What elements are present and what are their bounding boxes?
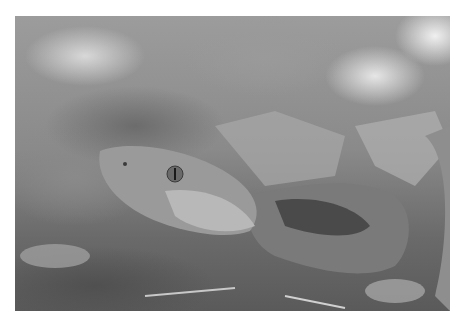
ground-twig [145,288,235,296]
snake-nostril [123,162,127,166]
ground-leaf [365,279,425,303]
background-leaf [215,111,345,186]
ground-twig [285,296,345,308]
snake-illustration [15,16,450,311]
ground-leaf [20,244,90,268]
snake-photo [15,16,450,311]
